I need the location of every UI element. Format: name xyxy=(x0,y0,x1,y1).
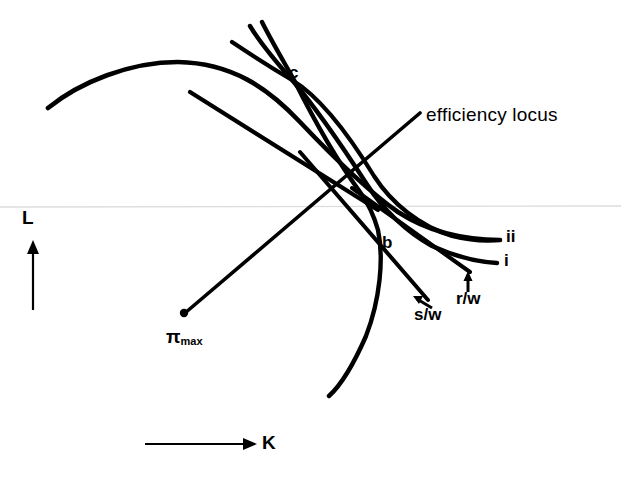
axis-label-K: K xyxy=(262,433,276,452)
axis-label-L: L xyxy=(22,208,34,227)
profit-max-label: πmax xyxy=(166,327,203,346)
point-label-b: b xyxy=(382,234,392,251)
ratio-label-rw: r/w xyxy=(456,290,481,307)
efficiency-locus-label: efficiency locus xyxy=(426,105,558,124)
ratio-label-sw: s/w xyxy=(414,306,441,323)
production-frontier-arc xyxy=(48,62,500,240)
point-label-a: a xyxy=(378,196,387,213)
isocost-upper-left-line xyxy=(190,92,378,210)
steep-isoquant-through-c xyxy=(262,22,381,396)
curve-label-isoquant-ii: ii xyxy=(506,228,515,245)
curve-label-isoquant-i: i xyxy=(504,252,509,269)
pi-subscript: max xyxy=(181,335,203,347)
diagram-svg xyxy=(0,0,621,483)
labor-axis-arrow-icon xyxy=(27,240,39,310)
capital-axis-arrow-icon xyxy=(145,438,257,450)
profit-max-origin-dot xyxy=(180,309,188,317)
pi-symbol: π xyxy=(166,326,181,347)
figure-canvas: c a b ii i efficiency locus r/w s/w L K … xyxy=(0,0,621,483)
point-label-c: c xyxy=(289,64,298,81)
